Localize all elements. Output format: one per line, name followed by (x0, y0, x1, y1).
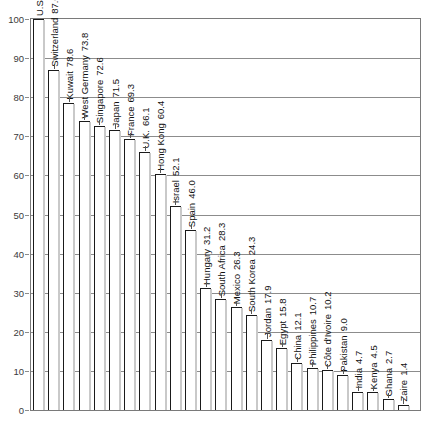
bar-label-category: Switzerland (49, 18, 60, 67)
cropped-caption-strip (0, 0, 433, 7)
bar-label-category: Jordan (262, 308, 273, 337)
bar-label-value: 15.8 (277, 298, 288, 317)
bar (261, 340, 272, 410)
bar-label-value: 24.3 (246, 237, 257, 256)
bar (139, 152, 150, 410)
label-leader-tick (343, 369, 344, 374)
bar (322, 370, 333, 410)
bar-label-value: 17.9 (262, 285, 273, 304)
label-leader-tick (312, 362, 313, 367)
bar (291, 363, 302, 410)
y-axis-tick-label: 100 (0, 14, 24, 25)
bar (215, 299, 226, 410)
label-leader-tick (99, 120, 100, 125)
bar (48, 70, 59, 410)
bar (398, 405, 409, 410)
bar-label-value: 12.1 (292, 312, 303, 331)
bar-label-value: 4.7 (353, 351, 364, 364)
y-axis-tick-mark (25, 293, 29, 294)
label-leader-tick (54, 64, 55, 69)
bar-label-category: West Germany (79, 55, 90, 118)
bar-label-value: 52.1 (170, 158, 181, 177)
label-leader-tick (84, 115, 85, 120)
bar (94, 126, 105, 410)
bar-label-value: 2.7 (383, 351, 394, 364)
label-leader-tick (388, 393, 389, 398)
bar (170, 206, 181, 410)
label-leader-tick (191, 224, 192, 229)
bar-label-value: 73.8 (79, 33, 90, 52)
bar (307, 368, 318, 410)
bar (33, 19, 44, 410)
bar (383, 399, 394, 410)
bar-label-category: Pakistan (338, 335, 349, 371)
label-leader-tick (373, 386, 374, 391)
bar (200, 288, 211, 410)
bar (337, 375, 348, 410)
y-axis-tick-label: 90 (0, 53, 24, 64)
y-axis-tick-mark (25, 254, 29, 255)
y-axis-tick-label: 50 (0, 209, 24, 220)
y-axis-tick-mark (25, 97, 29, 98)
label-leader-tick (403, 399, 404, 404)
label-leader-tick (267, 334, 268, 339)
label-leader-tick (297, 357, 298, 362)
y-axis-tick-mark (25, 136, 29, 137)
bar-label-value: 1.4 (398, 363, 409, 376)
y-axis-tick-label: 20 (0, 326, 24, 337)
bar (155, 174, 166, 410)
bar-label-category: South Africa (216, 245, 227, 296)
bar (79, 121, 90, 410)
bar-label-value: 66.1 (140, 108, 151, 127)
bar (124, 139, 135, 410)
label-leader-tick (160, 168, 161, 173)
label-leader-tick (175, 200, 176, 205)
bar-label-value: 10.7 (307, 297, 318, 316)
y-axis-tick-mark (25, 371, 29, 372)
label-leader-tick (251, 309, 252, 314)
label-leader-tick (130, 133, 131, 138)
bar-label-category: Philippines (307, 319, 318, 365)
bar-label-value: 28.3 (216, 223, 227, 242)
label-leader-tick (145, 146, 146, 151)
y-axis-tick-mark (25, 58, 29, 59)
bar-label-category: Ghana (383, 368, 394, 397)
bar-label-value: 46.0 (186, 180, 197, 199)
label-leader-tick (282, 342, 283, 347)
bar-label-category: Côte d'Ivoire (322, 314, 333, 367)
y-axis-tick-mark (25, 332, 29, 333)
label-leader-tick (115, 124, 116, 129)
bar-label-category: Hungary (201, 249, 212, 285)
bar-label-value: 10.2 (322, 292, 333, 311)
y-axis-tick-label: 40 (0, 248, 24, 259)
label-leader-tick (327, 364, 328, 369)
bar-label-value: 26.3 (231, 252, 242, 271)
bar (276, 348, 287, 410)
y-axis-tick-label: 80 (0, 92, 24, 103)
label-leader-tick (236, 301, 237, 306)
y-axis-tick-label: 30 (0, 287, 24, 298)
y-axis-tick-label: 10 (0, 365, 24, 376)
bar-label-category: France (125, 106, 136, 136)
bar-label-value: 4.5 (368, 345, 379, 358)
y-axis-tick-mark (25, 410, 29, 411)
bar-label-value: 87.0 (49, 0, 60, 14)
bar-label-value: 60.4 (155, 101, 166, 120)
bar (185, 230, 196, 410)
bar-label-value: 31.2 (201, 227, 212, 246)
bar-label-category: South Korea (246, 259, 257, 312)
bar (367, 392, 378, 410)
y-axis-tick-label: 70 (0, 131, 24, 142)
bar-label-category: Kuwait (64, 71, 75, 100)
label-leader-tick (358, 386, 359, 391)
bar-label-category: Singapore (94, 80, 105, 123)
bar-label-value: 72.6 (94, 57, 105, 76)
bar-label-value: 78.6 (64, 49, 75, 68)
label-leader-tick (221, 293, 222, 298)
y-axis-tick-mark (25, 215, 29, 216)
y-axis-tick-label: 60 (0, 170, 24, 181)
bar-label-category: U.S. (34, 0, 45, 16)
bar (352, 392, 363, 410)
bar (246, 315, 257, 410)
bar-label-category: Hong Kong (155, 123, 166, 171)
